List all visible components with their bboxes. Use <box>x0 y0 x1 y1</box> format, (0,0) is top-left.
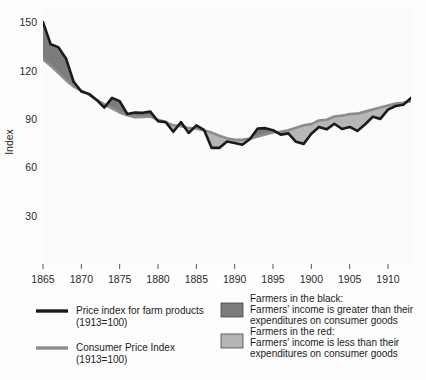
x-tick-label: 1885 <box>185 273 209 285</box>
legend-title-farmers-in-the-black: Farmers in the black: <box>250 293 343 304</box>
y-tick-label: 60 <box>25 161 37 173</box>
legend-swatch-farmers-in-the-black <box>221 303 243 317</box>
x-tick-label: 1870 <box>70 273 94 285</box>
x-tick-label: 1895 <box>261 273 285 285</box>
x-tick-label: 1880 <box>146 273 170 285</box>
legend-desc-farmers-in-the-black-line2: expenditures on consumer goods <box>250 315 398 326</box>
x-tick-label: 1890 <box>223 273 247 285</box>
legend-desc-farmers-in-the-red-line2: expenditures on consumer goods <box>250 348 398 359</box>
x-tick-label: 1905 <box>338 273 362 285</box>
x-tick-label: 1900 <box>300 273 324 285</box>
plot-background <box>43 6 411 264</box>
chart-canvas: 3060901201501865187018751880188518901895… <box>0 0 426 380</box>
legend-desc-farmers-in-the-red-line1: Farmers' income is less than their <box>250 337 400 348</box>
legend-swatch-farmers-in-the-red <box>221 334 243 348</box>
y-tick-label: 120 <box>19 65 37 77</box>
x-tick-label: 1865 <box>31 273 55 285</box>
x-tick-label: 1875 <box>108 273 132 285</box>
legend-label-consumer-price-index-line2: (1913=100) <box>76 354 127 365</box>
y-axis-title: Index <box>3 128 15 154</box>
y-tick-label: 30 <box>25 210 37 222</box>
y-tick-label: 90 <box>25 113 37 125</box>
legend-right: Farmers in the black: Farmers' income is… <box>221 293 414 359</box>
legend-label-consumer-price-index-line1: Consumer Price Index <box>76 342 175 353</box>
x-tick-label: 1910 <box>376 273 400 285</box>
legend-desc-farmers-in-the-black-line1: Farmers' income is greater than their <box>250 304 414 315</box>
legend-label-farm-price-index-line1: Price index for farm products <box>76 305 204 316</box>
legend-label-farm-price-index-line2: (1913=100) <box>76 317 127 328</box>
legend-left: Price index for farm products (1913=100)… <box>36 305 204 365</box>
y-tick-label: 150 <box>19 16 37 28</box>
chart-figure: 3060901201501865187018751880188518901895… <box>0 0 426 380</box>
legend-title-farmers-in-the-red: Farmers in the red: <box>250 326 334 337</box>
